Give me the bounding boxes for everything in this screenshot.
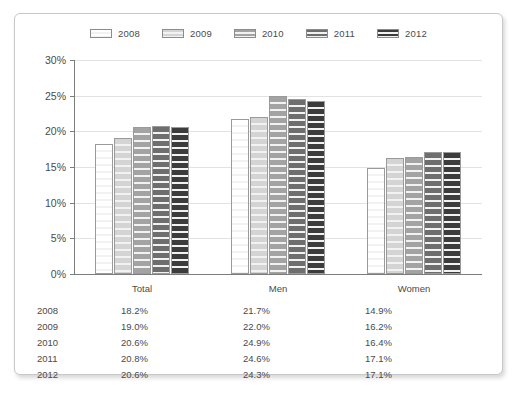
chart-panel: 20082009201020112012 0%5%10%15%20%25%30%… [14, 13, 503, 375]
table-cell-women: 17.1% [365, 367, 487, 383]
table-cell-men: 24.3% [243, 367, 365, 383]
y-tick-label: 10% [45, 197, 66, 209]
y-tick-label: 5% [51, 232, 66, 244]
table-cell-men: 22.0% [243, 318, 365, 334]
plot-area: 0%5%10%15%20%25%30% TotalMenWomen [74, 60, 482, 274]
bar-women-2008[interactable] [367, 168, 385, 274]
table-row: 201120.8%24.6%17.1% [37, 351, 487, 367]
table-cell-men: 21.7% [243, 302, 365, 318]
x-axis-label-women: Women [346, 283, 482, 294]
x-axis-label-men: Men [210, 283, 346, 294]
table-cell-women: 14.9% [365, 302, 487, 318]
table-cell-year: 2009 [37, 318, 121, 334]
table-cell-women: 16.2% [365, 318, 487, 334]
data-table-body: 200818.2%21.7%14.9%200919.0%22.0%16.2%20… [37, 302, 487, 383]
bar-total-2008[interactable] [95, 144, 113, 274]
bar-men-2010[interactable] [269, 96, 287, 274]
table-cell-total: 18.2% [121, 302, 243, 318]
bar-women-2009[interactable] [386, 158, 404, 274]
bar-men-2012[interactable] [307, 101, 325, 274]
table-cell-year: 2012 [37, 367, 121, 383]
legend-swatch-icon [90, 29, 112, 38]
table-cell-total: 20.6% [121, 334, 243, 350]
table-row: 200919.0%22.0%16.2% [37, 318, 487, 334]
bar-men-2009[interactable] [250, 117, 268, 274]
legend-item-2012[interactable]: 2012 [377, 28, 427, 39]
legend-label: 2010 [262, 28, 284, 39]
table-cell-year: 2010 [37, 334, 121, 350]
legend-item-2008[interactable]: 2008 [90, 28, 140, 39]
legend-label: 2009 [190, 28, 212, 39]
bar-group-women: Women [346, 60, 482, 274]
table-row: 201020.6%24.9%16.4% [37, 334, 487, 350]
legend-label: 2008 [118, 28, 140, 39]
y-tick-label: 30% [45, 54, 66, 66]
x-axis-line [74, 274, 482, 275]
bar-total-2010[interactable] [133, 127, 151, 274]
legend-item-2010[interactable]: 2010 [234, 28, 284, 39]
bar-women-2010[interactable] [405, 157, 423, 274]
chart-legend: 20082009201020112012 [15, 28, 502, 39]
bar-men-2011[interactable] [288, 99, 306, 274]
table-cell-year: 2011 [37, 351, 121, 367]
table-cell-total: 20.6% [121, 367, 243, 383]
y-tick-label: 0% [51, 268, 66, 280]
table-cell-women: 16.4% [365, 334, 487, 350]
bar-total-2011[interactable] [152, 126, 170, 274]
bar-total-2012[interactable] [171, 127, 189, 274]
legend-swatch-icon [234, 29, 256, 38]
legend-label: 2012 [405, 28, 427, 39]
bar-total-2009[interactable] [114, 138, 132, 274]
legend-item-2011[interactable]: 2011 [306, 28, 355, 39]
legend-swatch-icon [377, 29, 399, 38]
legend-swatch-icon [306, 29, 328, 38]
data-table: 200818.2%21.7%14.9%200919.0%22.0%16.2%20… [37, 302, 487, 383]
table-cell-men: 24.6% [243, 351, 365, 367]
bar-group-men: Men [210, 60, 346, 274]
bar-women-2011[interactable] [424, 152, 442, 274]
legend-label: 2011 [334, 28, 355, 39]
bar-women-2012[interactable] [443, 152, 461, 274]
legend-swatch-icon [162, 29, 184, 38]
x-axis-label-total: Total [74, 283, 210, 294]
table-cell-men: 24.9% [243, 334, 365, 350]
table-row: 201220.6%24.3%17.1% [37, 367, 487, 383]
table-cell-women: 17.1% [365, 351, 487, 367]
bar-group-total: Total [74, 60, 210, 274]
table-cell-year: 2008 [37, 302, 121, 318]
table-row: 200818.2%21.7%14.9% [37, 302, 487, 318]
table-cell-total: 19.0% [121, 318, 243, 334]
table-cell-total: 20.8% [121, 351, 243, 367]
legend-item-2009[interactable]: 2009 [162, 28, 212, 39]
bar-men-2008[interactable] [231, 119, 249, 274]
y-tick-label: 20% [45, 125, 66, 137]
y-tick-label: 25% [45, 90, 66, 102]
y-tick-mark [70, 274, 75, 275]
y-tick-label: 15% [45, 161, 66, 173]
